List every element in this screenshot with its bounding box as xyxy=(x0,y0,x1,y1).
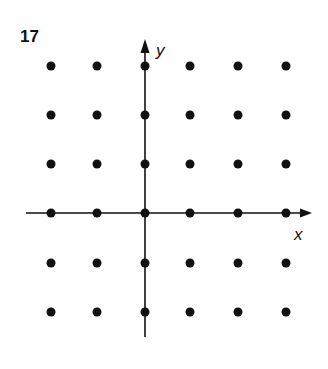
lattice-point xyxy=(186,259,195,268)
lattice-point xyxy=(93,160,102,169)
x-axis-arrow-icon xyxy=(300,209,312,218)
lattice-point xyxy=(141,209,150,218)
lattice-point xyxy=(141,62,150,71)
lattice-point xyxy=(93,62,102,71)
lattice-point xyxy=(47,209,56,218)
lattice-point xyxy=(282,160,291,169)
lattice-point xyxy=(141,308,150,317)
lattice-point xyxy=(282,259,291,268)
lattice-point xyxy=(47,160,56,169)
y-axis-label: y xyxy=(155,41,166,60)
lattice-diagram: x y xyxy=(0,0,328,369)
lattice-point xyxy=(234,308,243,317)
lattice-point xyxy=(186,308,195,317)
lattice-point xyxy=(93,308,102,317)
lattice-point xyxy=(282,62,291,71)
axes: x y xyxy=(26,39,312,337)
lattice-point xyxy=(47,62,56,71)
lattice-point xyxy=(282,111,291,120)
lattice-point xyxy=(234,209,243,218)
lattice-point xyxy=(282,209,291,218)
lattice-point xyxy=(47,308,56,317)
lattice-point xyxy=(282,308,291,317)
lattice-point xyxy=(186,111,195,120)
lattice-points xyxy=(47,62,291,317)
lattice-point xyxy=(186,160,195,169)
lattice-point xyxy=(141,111,150,120)
lattice-point xyxy=(186,62,195,71)
y-axis-arrow-icon xyxy=(141,39,150,53)
x-axis-label: x xyxy=(293,225,303,244)
lattice-point xyxy=(234,259,243,268)
lattice-point xyxy=(93,259,102,268)
lattice-point xyxy=(141,160,150,169)
lattice-point xyxy=(186,209,195,218)
lattice-point xyxy=(234,111,243,120)
lattice-point xyxy=(47,259,56,268)
lattice-point xyxy=(93,111,102,120)
lattice-point xyxy=(93,209,102,218)
lattice-point xyxy=(234,62,243,71)
lattice-point xyxy=(141,259,150,268)
lattice-point xyxy=(47,111,56,120)
lattice-point xyxy=(234,160,243,169)
